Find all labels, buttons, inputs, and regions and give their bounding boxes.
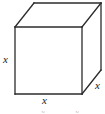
depth-edge-top-right (82, 3, 101, 27)
depth-edge-top-left (15, 3, 34, 27)
depth-edges (15, 3, 101, 94)
cube-figure: x x x x x (0, 0, 105, 114)
edge-label-right-x: x (95, 80, 100, 91)
edge-label-bottom-x: x (42, 95, 47, 106)
cut-off-text-fragment-right: x (75, 108, 79, 113)
cut-off-text-fragment-left: x (41, 108, 45, 113)
back-face-edges (34, 3, 101, 70)
front-face-edges (15, 27, 82, 94)
edge-label-left-x: x (3, 54, 8, 65)
cube-drawing (0, 0, 105, 114)
